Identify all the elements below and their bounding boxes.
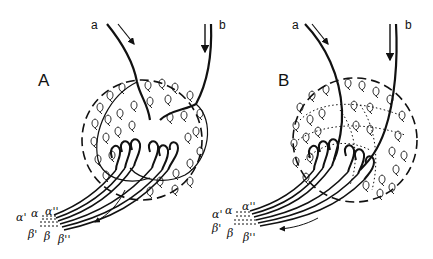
panel-b-input-b-label: b (405, 18, 412, 32)
output-bundle-a (54, 166, 168, 230)
label-alpha-double-prime-b: α'' (242, 200, 255, 213)
label-beta-prime-a: β' (27, 228, 37, 241)
panel-b-input-a-label: a (292, 18, 299, 32)
fiber-b (160, 24, 211, 120)
label-beta-double-prime-a: β'' (57, 233, 70, 246)
label-alpha-a: α (31, 207, 39, 220)
cells-b (291, 79, 407, 200)
fiber-a (107, 24, 150, 120)
label-beta-a: β (43, 230, 50, 243)
output-arrow-b-icon (280, 218, 318, 229)
label-alpha-prime-a: α' (16, 211, 26, 224)
panel-a-input-b-label: b (219, 18, 226, 32)
panel-a-input-a-label: a (91, 18, 98, 32)
panel-a-label: A (38, 71, 50, 90)
panel-b-label: B (278, 71, 289, 90)
label-alpha-prime-b: α' (212, 208, 222, 221)
label-beta-double-prime-b: β'' (242, 231, 255, 244)
panel-b: B a b (211, 18, 417, 244)
panel-a: A a b (16, 18, 226, 246)
fiber-b-b (360, 24, 397, 170)
label-alpha-double-prime-a: α'' (45, 205, 58, 218)
label-beta-b: β (226, 227, 233, 240)
label-beta-prime-b: β' (211, 222, 221, 235)
output-bundle-b (250, 166, 364, 226)
label-alpha-b: α (225, 204, 233, 217)
dendrite-loops-a (111, 139, 178, 170)
